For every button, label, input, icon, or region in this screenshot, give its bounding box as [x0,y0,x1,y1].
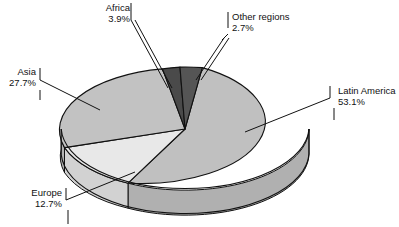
label-africa: Africa 3.9% [62,2,130,24]
label-latin-america: Latin America 53.1% [338,85,396,107]
label-other-regions-value: 2.7% [232,22,290,33]
label-latin-america-value: 53.1% [338,96,396,107]
leader-other-tick [222,34,228,40]
pie-chart: Africa 3.9% Other regions 2.7% Asia 27.7… [0,0,399,227]
label-africa-value: 3.9% [62,13,130,24]
label-latin-america-text: Latin America [338,85,396,96]
label-asia: Asia 27.7% [0,66,36,88]
label-europe-value: 12.7% [0,198,62,209]
label-europe-text: Europe [0,187,62,198]
label-africa-text: Africa [62,2,130,13]
label-europe: Europe 12.7% [0,187,62,209]
label-other-regions-text: Other regions [232,11,290,22]
label-asia-value: 27.7% [0,77,36,88]
label-asia-text: Asia [0,66,36,77]
label-other-regions: Other regions 2.7% [232,11,290,33]
